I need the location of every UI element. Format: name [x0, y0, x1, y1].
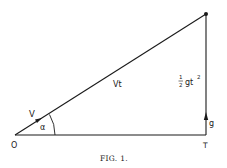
- gravity-arrow-icon: [204, 112, 208, 120]
- fall-expression: gt: [185, 78, 193, 87]
- origin-label: O: [11, 141, 17, 150]
- gravity-label: g: [209, 119, 214, 128]
- fraction-denominator: 2: [179, 82, 183, 88]
- apex-point: [204, 12, 208, 16]
- fall-exponent: 2: [197, 74, 201, 80]
- projectile-triangle-diagram: O T V α Vt 1 2 gt 2 g FIG. 1.: [0, 0, 227, 168]
- hypotenuse-line: [15, 14, 206, 135]
- hypotenuse-label: Vt: [113, 80, 122, 89]
- foot-label: T: [202, 141, 208, 150]
- figure-caption: FIG. 1.: [100, 154, 128, 163]
- velocity-label: V: [29, 109, 35, 119]
- fraction-numerator: 1: [179, 74, 183, 80]
- angle-arc: [50, 115, 56, 136]
- angle-label: α: [40, 123, 45, 132]
- fall-distance-label: 1 2 gt 2: [179, 74, 201, 88]
